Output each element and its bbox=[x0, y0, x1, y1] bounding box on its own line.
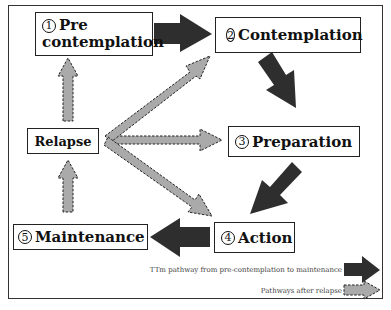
ttm-arrow-4-to-5 bbox=[150, 218, 210, 257]
legend-relapse-label: Pathways after relapse bbox=[261, 287, 342, 295]
stage-number-3: 3 bbox=[235, 135, 249, 149]
stage-number-2: 2 bbox=[226, 28, 235, 42]
stage-label: Preparation bbox=[252, 133, 352, 151]
ttm-arrow-2-to-3 bbox=[258, 52, 296, 108]
maintenance-arrow-to-relapse bbox=[58, 160, 78, 212]
stage-box-precontemplation: 1 Pre contemplation bbox=[35, 12, 153, 56]
stage-label: Maintenance bbox=[35, 228, 145, 246]
stage-number-1: 1 bbox=[42, 19, 56, 33]
relapse-arrow-to-contemplation bbox=[105, 56, 210, 142]
relapse-label: Relapse bbox=[34, 134, 91, 149]
stage-label-contemplation-line: contemplation bbox=[42, 34, 164, 51]
stage-number-4: 4 bbox=[221, 231, 235, 245]
legend-relapse-arrow-icon bbox=[344, 281, 380, 299]
stage-number-5: 5 bbox=[18, 230, 32, 244]
stage-label: Contemplation bbox=[238, 26, 363, 44]
ttm-arrow-3-to-4 bbox=[250, 162, 302, 214]
stage-box-action: 4 Action bbox=[214, 222, 295, 253]
stage-label-pre: Pre bbox=[59, 17, 88, 34]
legend-ttm-label: TTm pathway from pre-contemplation to ma… bbox=[150, 266, 342, 274]
relapse-box: Relapse bbox=[27, 128, 99, 154]
stage-box-preparation: 3 Preparation bbox=[228, 126, 360, 157]
relapse-arrow-to-preparation bbox=[108, 129, 222, 151]
stage-box-contemplation: 2 Contemplation bbox=[215, 17, 361, 53]
relapse-arrow-to-precontemplation bbox=[58, 58, 78, 121]
relapse-arrow-to-action bbox=[104, 137, 212, 216]
legend-ttm-arrow-icon bbox=[344, 256, 380, 283]
stage-box-maintenance: 5 Maintenance bbox=[13, 224, 148, 250]
stage-label: Action bbox=[238, 229, 292, 247]
